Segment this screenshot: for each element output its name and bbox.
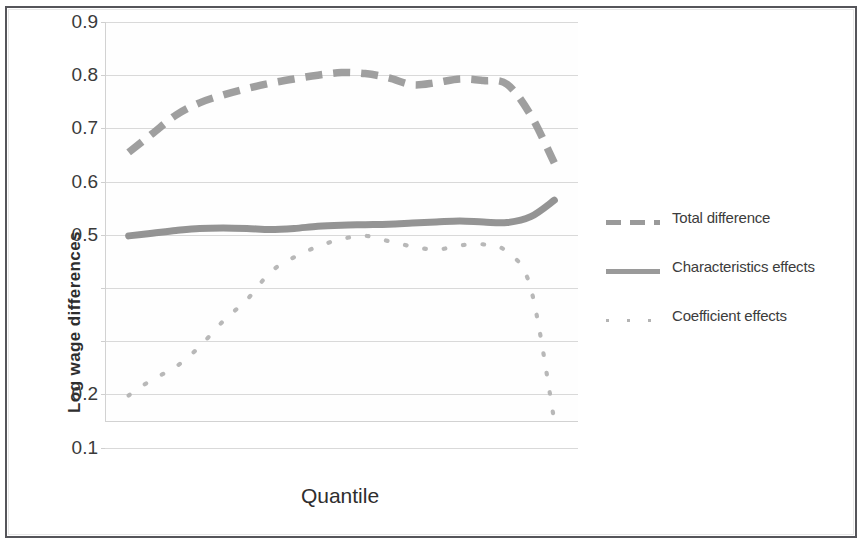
legend-label: Coefficient effects [672, 307, 787, 324]
data-series-layer [105, 22, 578, 422]
y-axis-tick-label: 0.2 [46, 384, 98, 403]
legend-swatch-dashed-icon [606, 220, 660, 225]
plot-area [105, 22, 578, 422]
legend-label: Total difference [672, 209, 770, 226]
legend-swatch-dotted-icon [606, 319, 660, 322]
y-axis-tick-labels: 0.90.80.70.60.50.20.1 [40, 22, 98, 422]
legend-item[interactable]: Total difference [606, 206, 856, 255]
chart-figure: Log wage differences 0.90.80.70.60.50.20… [0, 0, 864, 545]
legend-item[interactable]: Characteristics effects [606, 255, 856, 304]
x-axis-title: Quantile [180, 484, 500, 508]
y-axis-tick-label: 0.6 [46, 172, 98, 191]
legend-item[interactable]: Coefficient effects [606, 304, 856, 353]
legend-swatch-solid-icon [606, 269, 660, 274]
legend-label: Characteristics effects [672, 258, 815, 275]
y-axis-tickmark [101, 448, 105, 449]
series-line [129, 200, 555, 236]
gridline [105, 448, 578, 449]
chart-legend: Total differenceCharacteristics effectsC… [606, 206, 856, 353]
y-axis-tick-label: 0.5 [46, 225, 98, 244]
y-axis-tick-label: 0.1 [46, 438, 98, 457]
series-line [129, 72, 555, 163]
y-axis-tick-label: 0.7 [46, 118, 98, 137]
y-axis-tick-label: 0.9 [46, 12, 98, 31]
y-axis-tick-label: 0.8 [46, 65, 98, 84]
series-line [129, 236, 555, 421]
